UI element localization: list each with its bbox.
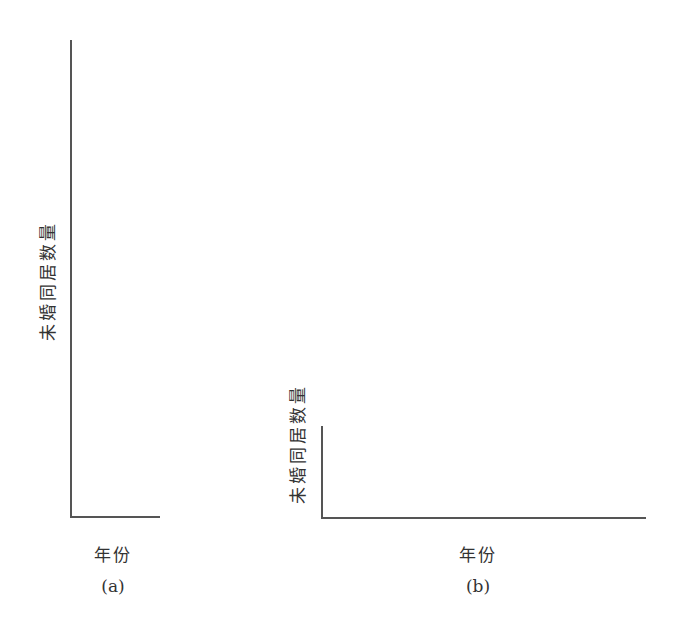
chart-a-y-axis: [70, 40, 72, 518]
chart-b-x-axis: [321, 517, 646, 519]
chart-a-x-axis: [70, 516, 160, 518]
chart-a-y-label: 未婚同居数量: [34, 221, 59, 341]
chart-a-sublabel: (a): [101, 576, 124, 596]
chart-b-sublabel: (b): [466, 576, 490, 596]
chart-a-x-label: 年份: [94, 541, 132, 566]
chart-b-y-axis: [321, 426, 323, 519]
chart-b-x-label: 年份: [459, 541, 497, 566]
chart-b-y-label: 未婚同居数量: [284, 384, 309, 504]
